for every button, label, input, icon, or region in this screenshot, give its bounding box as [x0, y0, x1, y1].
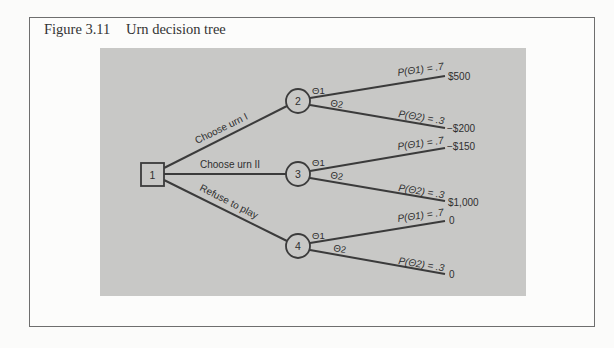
action-label-urn-2: Choose urn II: [200, 159, 260, 170]
decision-node-label: 1: [150, 169, 156, 181]
state-label: Θ2: [330, 169, 344, 182]
state-label: Θ2: [333, 242, 347, 255]
edge-refuse: [164, 180, 287, 241]
chance-node-4-label: 4: [295, 240, 301, 252]
edge-n2-theta1: [310, 76, 445, 98]
probability-label: P(Θ1) = .7: [397, 61, 445, 78]
state-label: Θ1: [312, 157, 325, 168]
edge-n3-theta1: [310, 148, 445, 171]
payoff-label: $1,000: [448, 197, 479, 208]
payoff-label: 0: [449, 269, 455, 280]
state-label: Θ2: [330, 97, 344, 110]
state-label: Θ1: [312, 230, 325, 241]
payoff-label: 0: [449, 215, 455, 226]
chance-node-3-label: 3: [295, 168, 301, 180]
chance-node-2-label: 2: [295, 95, 301, 107]
payoff-label: $500: [448, 71, 471, 82]
payoff-label: −$150: [447, 141, 476, 152]
state-label: Θ1: [312, 85, 325, 96]
payoff-label: −$200: [447, 123, 476, 134]
edge-n4-theta1: [310, 221, 445, 243]
decision-tree: 1 2 3 4 Choose urn I Choose urn II Refus…: [0, 0, 614, 348]
